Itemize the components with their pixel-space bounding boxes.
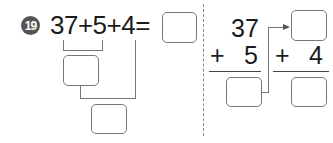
vertical-sum-box-2[interactable] (291, 77, 327, 107)
vertical-operand-2: 4 (309, 41, 323, 69)
vertical-plus-sign-2: + (275, 41, 290, 69)
vertical-operand: 5 (244, 41, 258, 69)
sum-line (209, 71, 261, 72)
connector-line (135, 40, 136, 99)
problem-number-badge: 19 (21, 16, 40, 35)
vertical-top-number: 37 (231, 14, 259, 42)
horizontal-expression: 37+5+4= (50, 10, 150, 40)
partial-sum-box-2[interactable] (91, 104, 127, 134)
vertical-plus-sign: + (210, 41, 225, 69)
arrow-line (268, 27, 269, 93)
final-answer-box[interactable] (162, 12, 197, 43)
arrow-head-icon (283, 24, 290, 30)
vertical-carry-box[interactable] (291, 10, 327, 41)
sum-line-2 (273, 71, 329, 72)
dashed-divider (203, 4, 204, 136)
bracket-line (63, 50, 103, 51)
arrow-line (268, 27, 284, 28)
vertical-sum-box-1[interactable] (226, 77, 262, 107)
connector-line (80, 98, 136, 99)
partial-sum-box-1[interactable] (63, 55, 99, 86)
